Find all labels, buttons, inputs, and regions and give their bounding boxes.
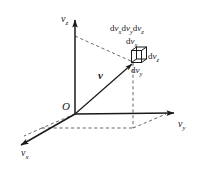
velocity-vector-label: v bbox=[98, 70, 103, 81]
dashed-z-to-tip bbox=[75, 36, 133, 62]
construction-dashed-lines bbox=[24, 36, 166, 136]
velocity-vector-group bbox=[75, 64, 132, 114]
axis-label-vz: vz bbox=[61, 14, 68, 27]
dashed-base-right bbox=[133, 114, 166, 128]
cube-edge-br bbox=[142, 59, 147, 63]
velocity-space-figure: vz vy vx O v dvxdvydvz dvx dvz dvy bbox=[0, 0, 201, 173]
cube-edge-label-dvy: dvy bbox=[131, 66, 142, 77]
figure-canvas bbox=[0, 0, 201, 173]
volume-element-product-label: dvxdvydvz bbox=[110, 24, 144, 35]
axis-vx-line bbox=[21, 114, 75, 145]
axis-label-vx: vx bbox=[21, 148, 29, 161]
origin-label: O bbox=[62, 101, 70, 112]
axis-label-vy: vy bbox=[178, 119, 186, 132]
volume-element-cube bbox=[132, 47, 147, 63]
cube-edge-label-dvx: dvx bbox=[126, 37, 137, 48]
cube-edge-label-dvz: dvz bbox=[148, 52, 159, 63]
velocity-vector-arrow bbox=[75, 64, 132, 114]
axes-group bbox=[21, 20, 174, 145]
cube-edge-bl bbox=[132, 59, 137, 63]
axis-vy-line bbox=[75, 113, 174, 114]
cube-edge-tr bbox=[142, 47, 147, 51]
